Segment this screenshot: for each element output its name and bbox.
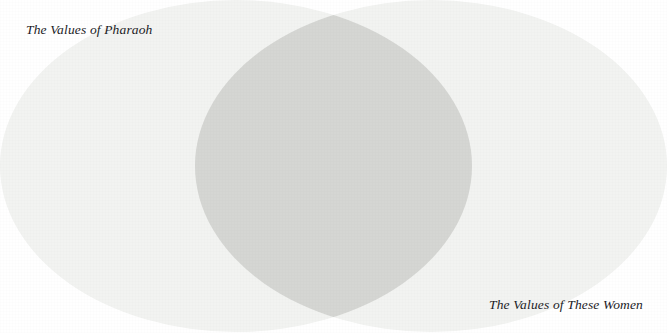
venn-label-left: The Values of Pharaoh: [26, 22, 153, 38]
venn-diagram-figure: The Values of Pharaoh The Values of Thes…: [0, 0, 667, 333]
venn-canvas: [0, 0, 667, 333]
venn-label-right: The Values of These Women: [489, 297, 643, 313]
